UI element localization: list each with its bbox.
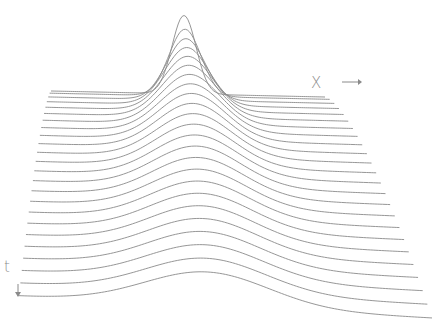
t-axis-label: t — [4, 258, 10, 276]
curve-line — [29, 181, 400, 228]
curve-line — [23, 231, 418, 277]
down-arrow-icon — [15, 284, 21, 297]
right-arrow-icon — [342, 79, 362, 85]
curve-line — [47, 48, 339, 109]
curve-line — [22, 245, 423, 291]
x-axis-label: X — [311, 74, 321, 92]
curve-line — [26, 206, 409, 252]
curve-line — [30, 169, 395, 216]
curve-line — [19, 272, 432, 318]
gaussian-curves — [19, 16, 432, 318]
curve-line — [40, 93, 362, 144]
waterfall-plot: X t — [0, 0, 437, 326]
curve-line — [44, 65, 348, 121]
curve-line — [45, 56, 343, 114]
curve-line — [20, 258, 427, 304]
curve-line — [36, 124, 376, 173]
